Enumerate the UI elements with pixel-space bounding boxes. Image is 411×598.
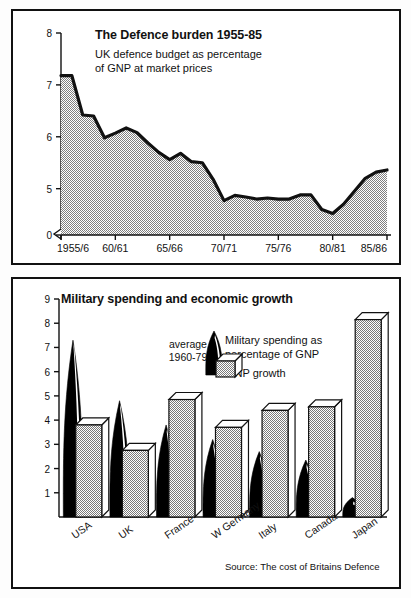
bottom-y-tick-label: 5 — [44, 391, 50, 402]
gnp-growth-bar-italy-side — [288, 403, 295, 517]
top-x-tick-label: 80/81 — [320, 242, 346, 254]
top-y-tick-label: 5 — [46, 184, 52, 195]
gnp-growth-bar-canada — [309, 407, 335, 517]
defence-burden-panel: The Defence burden 1955-85 UK defence bu… — [11, 9, 401, 265]
defence-burden-area-fill — [61, 76, 387, 235]
gnp-growth-bar-france — [169, 400, 195, 517]
top-x-tick-label: 75/76 — [265, 242, 291, 254]
bottom-y-tick-label: 3 — [44, 439, 50, 450]
gnp-growth-bar-japan-side — [381, 313, 388, 517]
legend-gnp-block-icon — [216, 361, 235, 377]
top-x-tick-label: 85/86 — [361, 242, 387, 254]
bottom-y-tick-label: 1 — [44, 488, 50, 499]
defence-burden-area-chart: 567801955/660/6165/6670/7175/7680/8185/8… — [13, 11, 399, 263]
top-y-tick-label-zero: 0 — [46, 230, 52, 241]
gnp-growth-bar-usa — [76, 425, 102, 517]
top-y-tick-label: 6 — [46, 132, 52, 143]
bottom-y-tick-label: 6 — [44, 367, 50, 378]
military-spending-panel: Military spending and economic growth av… — [11, 277, 401, 589]
top-y-tick-label: 8 — [46, 28, 52, 39]
bottom-y-tick-label: 9 — [44, 294, 50, 305]
gnp-growth-bar-japan — [355, 320, 381, 517]
top-x-tick-label: 65/66 — [157, 242, 183, 254]
gnp-growth-bar-italy — [262, 410, 288, 517]
gnp-growth-bar-uk — [122, 450, 148, 517]
bottom-y-tick-label: 8 — [44, 318, 50, 329]
bottom-y-tick-label: 7 — [44, 342, 50, 353]
top-x-tick-label: 60/61 — [102, 242, 128, 254]
gnp-growth-bar-france-side — [195, 393, 202, 517]
figure-page: The Defence burden 1955-85 UK defence bu… — [0, 0, 411, 598]
military-spending-bar-chart: 123456789 — [13, 279, 399, 587]
gnp-growth-bar-uk-side — [148, 443, 155, 517]
gnp-growth-bar-usa-side — [102, 418, 109, 517]
top-x-tick-label: 1955/6 — [57, 242, 89, 254]
bottom-y-tick-label: 4 — [44, 415, 50, 426]
bottom-y-tick-label: 2 — [44, 464, 50, 475]
top-x-tick-label: 70/71 — [211, 242, 237, 254]
top-y-tick-label: 7 — [46, 80, 52, 91]
source-note: Source: The cost of Britains Defence — [225, 561, 380, 572]
gnp-growth-bar-canada-side — [335, 400, 342, 517]
gnp-growth-bar-w-germany — [215, 427, 241, 517]
